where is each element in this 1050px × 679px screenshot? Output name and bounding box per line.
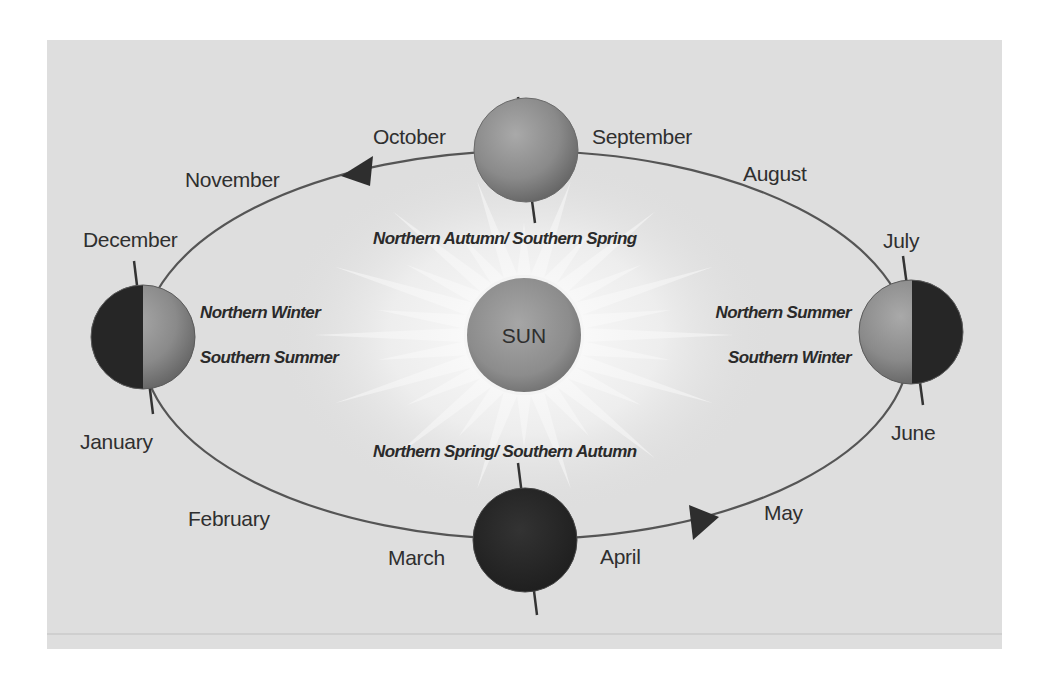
month-label-january: January	[80, 430, 153, 453]
month-label-august: August	[743, 162, 807, 185]
season-label: Southern Summer	[200, 348, 340, 367]
season-label: Northern Summer	[715, 303, 853, 322]
month-label-september: September	[592, 125, 692, 148]
season-label: Northern Spring/ Southern Autumn	[373, 442, 637, 461]
month-label-july: July	[883, 229, 920, 252]
earth-lit-sphere	[474, 98, 578, 202]
season-label: Northern Autumn/ Southern Spring	[373, 229, 638, 248]
month-label-november: November	[185, 168, 280, 191]
month-label-april: April	[600, 545, 641, 568]
month-label-march: March	[388, 546, 445, 569]
diagram-canvas: SUN OctoberSepte	[0, 0, 1050, 679]
earth-orbit-seasons-diagram: SUN OctoberSepte	[0, 0, 1050, 679]
month-label-december: December	[83, 228, 178, 251]
season-label: Northern Winter	[200, 303, 322, 322]
earth-dark-sphere	[473, 488, 577, 592]
month-label-october: October	[373, 125, 446, 148]
month-label-may: May	[764, 501, 804, 524]
season-label: Southern Winter	[728, 348, 853, 367]
sun-label: SUN	[502, 324, 546, 347]
sun: SUN	[467, 278, 581, 392]
month-label-february: February	[188, 507, 270, 530]
month-label-june: June	[891, 421, 935, 444]
